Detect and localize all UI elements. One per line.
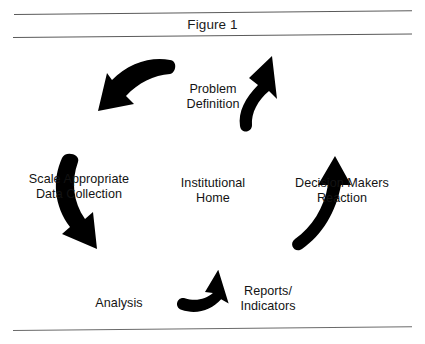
arrow-left-icon <box>56 154 97 249</box>
node-label-institutional-home: Institutional Home <box>158 176 268 205</box>
top-rule <box>14 10 412 15</box>
node-label-reports-indicators: Reports/ Indicators <box>222 284 314 313</box>
node-label-problem-definition: Problem Definition <box>160 82 266 111</box>
node-label-analysis: Analysis <box>76 296 162 311</box>
node-label-decision-makers: Decision Makers Reaction <box>276 176 408 205</box>
figure-title: Figure 1 <box>0 17 425 32</box>
figure-page: Figure 1 Problem Definition Decision Mak… <box>0 0 425 344</box>
cycle-diagram: Problem Definition Decision Makers React… <box>0 38 425 330</box>
node-label-scale-data: Scale Appropriate Data Collection <box>14 172 144 201</box>
